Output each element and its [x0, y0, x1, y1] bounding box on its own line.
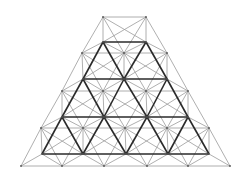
joint-node	[61, 165, 63, 167]
joint-node	[41, 153, 43, 155]
web-vertical	[41, 128, 42, 154]
joint-node	[145, 41, 147, 43]
joint-node	[103, 165, 105, 167]
truss-diagram	[0, 0, 245, 174]
joint-node	[103, 116, 105, 118]
web-vertical	[82, 53, 83, 79]
joint-node	[82, 78, 84, 80]
joint-node	[229, 165, 231, 167]
joint-node	[124, 127, 126, 129]
joint-node	[166, 52, 168, 54]
joint-node	[123, 78, 125, 80]
joint-node	[145, 16, 147, 18]
joint-node	[208, 127, 210, 129]
joint-node	[146, 116, 148, 118]
joint-node	[146, 165, 148, 167]
space-frame-drawing	[0, 0, 245, 174]
top-diagonal	[83, 79, 104, 117]
joint-node	[102, 41, 104, 43]
joint-node	[125, 153, 127, 155]
joint-node	[166, 127, 168, 129]
bottom-diagonal	[167, 128, 188, 166]
joint-node	[20, 165, 22, 167]
bottom-diagonal	[41, 128, 62, 166]
joint-node	[81, 52, 83, 54]
joint-node	[82, 127, 84, 129]
joint-node	[61, 116, 63, 118]
web-vertical	[167, 128, 168, 154]
joint-node	[102, 16, 104, 18]
bottom-diagonal	[82, 53, 103, 91]
joint-node	[187, 165, 189, 167]
joint-node	[187, 116, 189, 118]
bottom-layer-members	[21, 17, 230, 166]
joint-node	[208, 153, 210, 155]
joint-node	[123, 52, 125, 54]
web-vertical	[125, 128, 126, 154]
joint-node	[40, 127, 42, 129]
joint-node	[61, 90, 63, 92]
joint-node	[102, 90, 104, 92]
web-vertical	[103, 91, 104, 117]
joint-node	[145, 90, 147, 92]
bottom-diagonal	[125, 128, 147, 166]
joint-node	[166, 78, 168, 80]
top-diagonal	[124, 79, 147, 117]
joint-node	[187, 90, 189, 92]
joint-node	[82, 153, 84, 155]
joint-node	[167, 153, 169, 155]
web-vertical	[146, 91, 147, 117]
